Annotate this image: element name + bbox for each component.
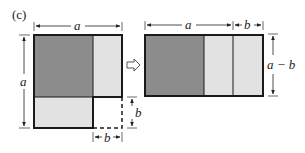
diagram-canvas bbox=[0, 0, 305, 153]
left-square bbox=[34, 35, 122, 128]
bottom-strip bbox=[34, 97, 93, 128]
label-right-b: b bbox=[135, 106, 142, 119]
label-left-side-a: a bbox=[20, 75, 27, 88]
right-strip bbox=[93, 35, 122, 97]
label-right-top-a: a bbox=[185, 18, 192, 31]
dark-region bbox=[34, 35, 93, 97]
label-a-minus-b: a − b bbox=[267, 58, 295, 71]
label-left-top-a: a bbox=[74, 19, 81, 32]
label-bottom-b: b bbox=[104, 131, 111, 144]
middle-strip bbox=[204, 35, 233, 96]
right-rectangle bbox=[145, 35, 263, 96]
moved-strip bbox=[233, 35, 263, 96]
label-right-top-b: b bbox=[244, 18, 251, 31]
removed-square-outline bbox=[93, 97, 122, 128]
transform-arrow-icon bbox=[127, 59, 140, 71]
dark-region bbox=[145, 35, 204, 96]
